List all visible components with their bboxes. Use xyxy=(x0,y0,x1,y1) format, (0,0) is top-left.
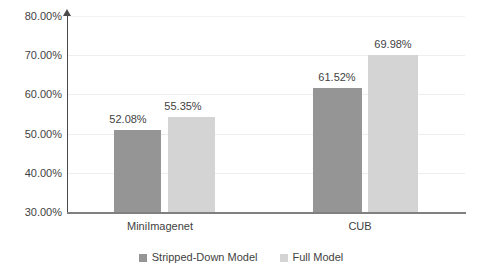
bar-value-label-cub-stripped: 61.52% xyxy=(307,72,367,83)
y-axis-arrow-icon xyxy=(63,9,71,16)
x-axis-line xyxy=(67,212,466,214)
bar-value-label-miniimagenet-full: 55.35% xyxy=(153,101,213,112)
bar-cub-full-model[interactable] xyxy=(368,55,418,212)
y-tick-label: 60.00% xyxy=(4,89,62,100)
legend-swatch-icon xyxy=(139,254,147,262)
y-tick-label: 50.00% xyxy=(4,129,62,140)
bar-value-label-miniimagenet-stripped: 52.08% xyxy=(98,114,158,125)
x-category-label-miniimagenet: MiniImagenet xyxy=(110,220,210,232)
legend-swatch-icon xyxy=(280,254,288,262)
bar-miniimagenet-stripped-down-model[interactable] xyxy=(114,130,161,212)
y-tick-label: 30.00% xyxy=(4,207,62,218)
legend-label: Stripped-Down Model xyxy=(152,252,258,263)
y-tick-label: 80.00% xyxy=(4,11,62,22)
gridline-80 xyxy=(68,16,465,17)
legend-item-full-model[interactable]: Full Model xyxy=(280,252,344,263)
chart-legend: Stripped-Down Model Full Model xyxy=(0,252,482,263)
y-axis-line xyxy=(67,14,68,213)
legend-item-stripped-down-model[interactable]: Stripped-Down Model xyxy=(139,252,258,263)
bar-cub-stripped-down-model[interactable] xyxy=(313,88,362,212)
legend-label: Full Model xyxy=(293,252,344,263)
bar-chart: 80.00% 70.00% 60.00% 50.00% 40.00% 30.00… xyxy=(0,0,482,274)
y-axis-tick-labels: 80.00% 70.00% 60.00% 50.00% 40.00% 30.00… xyxy=(0,0,62,274)
bar-miniimagenet-full-model[interactable] xyxy=(168,117,215,212)
x-category-label-cub: CUB xyxy=(320,220,400,232)
y-tick-label: 70.00% xyxy=(4,50,62,61)
bar-value-label-cub-full: 69.98% xyxy=(363,39,423,50)
y-tick-label: 40.00% xyxy=(4,168,62,179)
